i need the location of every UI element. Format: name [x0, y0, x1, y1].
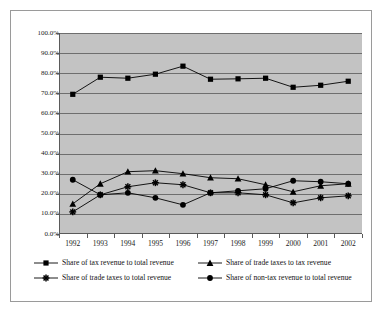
triangle-legend-icon	[197, 258, 223, 268]
legend-item[interactable]: Share of non-tax revenue to total revenu…	[197, 273, 357, 283]
circle-marker	[70, 177, 76, 183]
x-axis-tick	[197, 234, 198, 238]
chart-page: 0.0%10.0%20.0%30.0%40.0%50.0%60.0%70.0%8…	[0, 0, 382, 311]
square-marker	[346, 79, 351, 84]
circle-marker	[345, 181, 351, 187]
square-marker	[43, 260, 48, 265]
star-marker	[262, 191, 269, 198]
triangle-marker	[69, 200, 76, 206]
x-axis-tick	[87, 234, 88, 238]
square-marker	[263, 76, 268, 81]
y-axis-tick-label: 50.0%	[17, 130, 59, 137]
x-axis-tick-label: 2002	[330, 239, 366, 248]
square-marker	[98, 75, 103, 80]
square-marker	[208, 77, 213, 82]
circle-legend-icon	[197, 273, 223, 283]
square-marker	[125, 76, 130, 81]
series-0	[70, 64, 351, 97]
legend-item-label: Share of tax revenue to total revenue	[62, 259, 174, 267]
chart-legend: Share of tax revenue to total revenueSha…	[33, 258, 357, 283]
y-axis-tick-label: 10.0%	[17, 210, 59, 217]
x-axis-tick	[362, 234, 363, 238]
y-axis-tick-label: 40.0%	[17, 150, 59, 157]
circle-marker	[180, 202, 186, 208]
circle-marker	[207, 275, 213, 281]
legend-item-label: Share of trade taxes to tax revenue	[226, 259, 331, 267]
plot-wrapper: 0.0%10.0%20.0%30.0%40.0%50.0%60.0%70.0%8…	[11, 11, 373, 303]
square-marker	[180, 64, 185, 69]
square-marker	[291, 85, 296, 90]
legend-item[interactable]: Share of trade taxes to tax revenue	[197, 258, 357, 268]
y-axis-tick-label: 20.0%	[17, 190, 59, 197]
circle-marker	[97, 192, 103, 198]
star-marker	[180, 181, 187, 188]
star-marker	[43, 275, 50, 282]
series-line	[73, 183, 348, 212]
star-marker	[290, 199, 297, 206]
legend-item[interactable]: Share of trade taxes to total revenue	[33, 273, 193, 283]
x-axis-tick	[252, 234, 253, 238]
circle-marker	[318, 179, 324, 185]
x-axis-tick	[142, 234, 143, 238]
star-marker	[69, 208, 76, 215]
y-axis-tick-label: 100.0%	[17, 30, 59, 37]
cropped-top-text	[0, 0, 382, 9]
circle-marker	[290, 178, 296, 184]
legend-item-label: Share of trade taxes to total revenue	[62, 274, 171, 282]
x-axis-tick	[169, 234, 170, 238]
y-axis-tick-label: 0.0%	[17, 231, 59, 238]
star-marker	[345, 192, 352, 199]
square-marker	[318, 83, 323, 88]
series-2	[69, 179, 351, 215]
x-axis-tick	[307, 234, 308, 238]
series-3	[70, 177, 351, 208]
star-marker	[152, 179, 159, 186]
series-1	[69, 167, 351, 206]
circle-marker	[125, 190, 131, 196]
figure-frame: 0.0%10.0%20.0%30.0%40.0%50.0%60.0%70.0%8…	[10, 10, 372, 302]
y-axis-tick-label: 60.0%	[17, 110, 59, 117]
x-axis-tick	[114, 234, 115, 238]
square-marker	[70, 92, 75, 97]
square-marker	[153, 72, 158, 77]
x-axis-tick	[59, 234, 60, 238]
triangle-marker	[97, 180, 104, 186]
circle-marker	[153, 195, 159, 201]
star-marker	[317, 194, 324, 201]
y-axis-tick-label: 70.0%	[17, 90, 59, 97]
square-legend-icon	[33, 258, 59, 268]
y-axis-tick-label: 30.0%	[17, 170, 59, 177]
square-marker	[235, 76, 240, 81]
series-layer	[59, 33, 362, 234]
legend-item[interactable]: Share of tax revenue to total revenue	[33, 258, 193, 268]
y-axis-tick-label: 80.0%	[17, 70, 59, 77]
star-marker	[124, 183, 131, 190]
x-axis-tick	[279, 234, 280, 238]
legend-item-label: Share of non-tax revenue to total revenu…	[226, 274, 352, 282]
x-axis-tick	[334, 234, 335, 238]
circle-marker	[208, 190, 214, 196]
circle-marker	[263, 186, 269, 192]
circle-marker	[235, 188, 241, 194]
star-legend-icon	[33, 273, 59, 283]
y-axis-tick-label: 90.0%	[17, 50, 59, 57]
x-axis-tick	[224, 234, 225, 238]
